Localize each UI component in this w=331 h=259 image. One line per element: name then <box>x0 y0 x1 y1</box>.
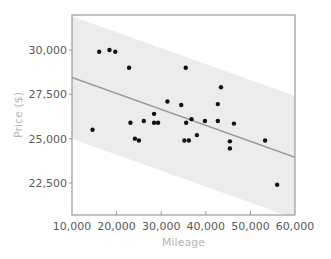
x-tick-label: 50,000 <box>231 220 270 233</box>
data-point <box>228 146 232 150</box>
y-tick-label: 25,000 <box>29 133 68 146</box>
y-tick-label: 30,000 <box>29 44 68 57</box>
x-tick-label: 30,000 <box>142 220 181 233</box>
data-point <box>128 121 132 125</box>
data-point <box>216 119 220 123</box>
x-tick-label: 20,000 <box>97 220 136 233</box>
data-point <box>156 121 160 125</box>
x-tick-label: 40,000 <box>187 220 226 233</box>
data-point <box>184 121 188 125</box>
plot-area <box>72 15 295 218</box>
data-point <box>184 66 188 70</box>
data-point <box>107 48 111 52</box>
y-axis-title: Price ($) <box>12 92 25 138</box>
data-point <box>195 133 199 137</box>
data-point <box>275 183 279 187</box>
data-point <box>228 139 232 143</box>
data-point <box>203 119 207 123</box>
data-point <box>219 85 223 89</box>
data-point <box>127 66 131 70</box>
y-tick-label: 22,500 <box>29 177 68 190</box>
data-point <box>232 121 236 125</box>
data-point <box>165 99 169 103</box>
data-point <box>182 138 186 142</box>
data-point <box>90 128 94 132</box>
data-point <box>113 50 117 54</box>
data-point <box>189 117 193 121</box>
data-point <box>152 112 156 116</box>
data-point <box>137 138 141 142</box>
data-point <box>142 119 146 123</box>
y-tick-label: 27,500 <box>29 88 68 101</box>
y-axis: 22,50025,00027,50030,000 <box>29 44 73 190</box>
data-point <box>187 138 191 142</box>
x-axis-title: Mileage <box>162 236 205 249</box>
data-point <box>152 121 156 125</box>
x-tick-label: 60,000 <box>276 220 315 233</box>
data-point <box>216 102 220 106</box>
scatter-chart: 10,00020,00030,00040,00050,00060,000 22,… <box>0 0 331 259</box>
data-point <box>133 136 137 140</box>
data-point <box>97 50 101 54</box>
x-tick-label: 10,000 <box>53 220 92 233</box>
data-point <box>263 138 267 142</box>
data-point <box>179 103 183 107</box>
